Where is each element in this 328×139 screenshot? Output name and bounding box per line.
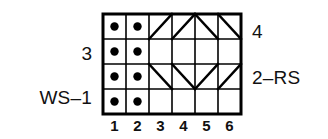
column-number-3: 3 bbox=[150, 118, 172, 133]
purl-dot-icon bbox=[133, 72, 141, 80]
column-number-2: 2 bbox=[127, 118, 149, 133]
purl-dot-icon bbox=[110, 72, 118, 80]
pattern-chart: 3 WS–1 4 2–RS 123456 bbox=[0, 0, 328, 139]
column-number-1: 1 bbox=[104, 118, 126, 133]
purl-dot-icon bbox=[133, 97, 141, 105]
column-number-4: 4 bbox=[173, 118, 195, 133]
column-number-6: 6 bbox=[219, 118, 241, 133]
purl-dot-icon bbox=[110, 22, 118, 30]
purl-dot-icon bbox=[110, 47, 118, 55]
column-number-5: 5 bbox=[196, 118, 218, 133]
purl-dot-icon bbox=[110, 97, 118, 105]
purl-dot-icon bbox=[133, 47, 141, 55]
purl-dot-icon bbox=[133, 22, 141, 30]
